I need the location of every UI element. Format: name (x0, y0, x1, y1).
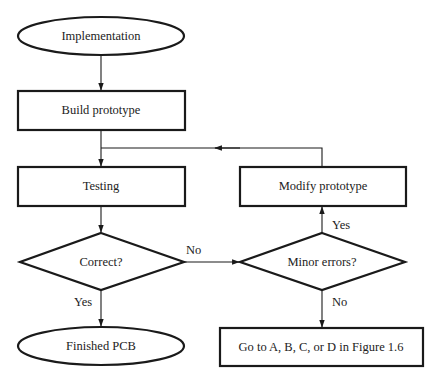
node-correct: Correct? (20, 233, 184, 290)
edge-label-correct-no: No (186, 243, 201, 257)
edge-label-minor-yes: Yes (332, 218, 350, 232)
node-label: Implementation (61, 29, 141, 43)
node-goto-figure: Go to A, B, C, or D in Figure 1.6 (220, 328, 423, 366)
node-label: Correct? (79, 255, 122, 269)
node-label: Testing (83, 179, 120, 193)
node-build-prototype: Build prototype (18, 91, 185, 130)
edge-modify-to-testing (101, 148, 322, 167)
node-minor-errors: Minor errors? (240, 233, 405, 290)
edge-label-correct-yes: Yes (74, 295, 92, 309)
node-testing: Testing (18, 167, 185, 206)
node-finished-pcb: Finished PCB (18, 327, 184, 365)
flowchart: No Yes Yes No Implementation Build proto… (0, 0, 438, 383)
node-label: Finished PCB (66, 339, 136, 353)
edge-label-minor-no: No (332, 295, 347, 309)
node-label: Minor errors? (287, 255, 357, 269)
node-label: Go to A, B, C, or D in Figure 1.6 (239, 340, 404, 354)
node-modify-prototype: Modify prototype (240, 167, 406, 206)
node-label: Modify prototype (279, 179, 368, 193)
node-implementation: Implementation (18, 17, 184, 55)
node-label: Build prototype (62, 103, 141, 117)
